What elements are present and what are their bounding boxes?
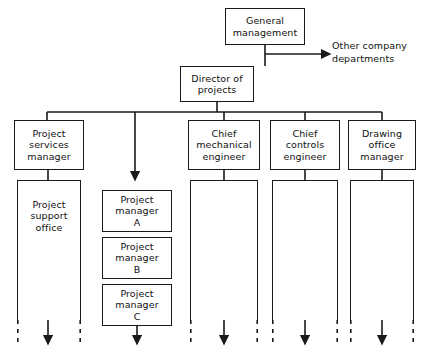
node-director-of-projects[interactable]: Director of projects bbox=[180, 66, 254, 102]
node-project-manager-b[interactable]: Project manager B bbox=[102, 237, 172, 279]
node-project-manager-a[interactable]: Project manager A bbox=[102, 190, 172, 232]
drawing-stream-container[interactable] bbox=[350, 180, 414, 320]
org-chart-canvas: Project support office General managemen… bbox=[0, 0, 423, 358]
label-other-company-departments: Other company departments bbox=[332, 40, 407, 66]
node-general-management[interactable]: General management bbox=[225, 8, 305, 45]
node-drawing-office-manager[interactable]: Drawing office manager bbox=[348, 120, 416, 170]
project-support-office-container[interactable]: Project support office bbox=[17, 180, 81, 320]
node-project-manager-c[interactable]: Project manager C bbox=[102, 284, 172, 326]
node-chief-mechanical-engineer[interactable]: Chief mechanical engineer bbox=[188, 120, 260, 170]
controls-stream-container[interactable] bbox=[272, 180, 338, 320]
mechanical-stream-container[interactable] bbox=[190, 180, 258, 320]
node-chief-controls-engineer[interactable]: Chief controls engineer bbox=[270, 120, 340, 170]
project-support-office-label: Project support office bbox=[30, 199, 67, 232]
node-project-services-manager[interactable]: Project services manager bbox=[14, 120, 84, 170]
